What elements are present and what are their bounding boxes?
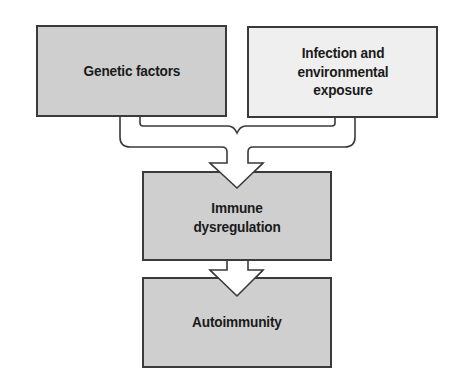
down-arrow-head-icon [211, 271, 262, 295]
arrow-tips-overlay [0, 0, 461, 392]
merge-arrow-head-icon [211, 164, 262, 188]
